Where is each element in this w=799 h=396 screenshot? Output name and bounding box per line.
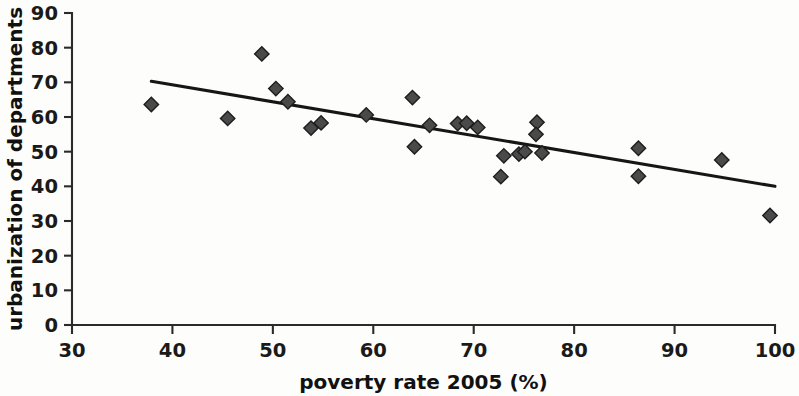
y-tick-label: 0 — [44, 314, 58, 337]
data-point-marker — [763, 208, 777, 222]
chart-canvas: 010203040506070809030405060708090100pove… — [0, 0, 799, 396]
x-axis-title: poverty rate 2005 (%) — [299, 370, 547, 394]
y-tick-label: 90 — [31, 2, 58, 25]
y-tick-label: 80 — [31, 37, 58, 60]
data-point-marker — [281, 95, 295, 109]
data-point-marker — [529, 127, 543, 141]
y-axis-title: urbanization of departments — [3, 7, 27, 331]
y-tick-label: 30 — [31, 210, 58, 233]
data-point-marker — [269, 81, 283, 95]
data-point-marker — [407, 140, 421, 154]
data-point-marker — [497, 149, 511, 163]
scatter-plot-figure: 010203040506070809030405060708090100pove… — [0, 0, 799, 396]
y-tick-label: 60 — [31, 106, 58, 129]
y-tick-label: 70 — [31, 71, 58, 94]
data-point-marker — [631, 169, 645, 183]
data-point-marker — [405, 90, 419, 104]
y-tick-label: 40 — [31, 175, 58, 198]
y-tick-label: 20 — [31, 245, 58, 268]
trend-line — [151, 81, 775, 186]
x-tick-label: 100 — [755, 339, 796, 362]
x-tick-label: 90 — [661, 339, 688, 362]
x-axis-ticks: 30405060708090100 — [58, 325, 795, 362]
data-point-marker — [494, 169, 508, 183]
y-axis-ticks: 0102030405060708090 — [31, 2, 72, 337]
y-tick-label: 10 — [31, 279, 58, 302]
x-tick-label: 40 — [159, 339, 186, 362]
data-point-marker — [144, 97, 158, 111]
data-point-marker — [359, 108, 373, 122]
data-point-marker — [220, 111, 234, 125]
y-tick-label: 50 — [31, 141, 58, 164]
x-tick-label: 30 — [58, 339, 85, 362]
data-point-marker — [631, 141, 645, 155]
data-point-marker — [255, 47, 269, 61]
data-point-marker — [715, 153, 729, 167]
x-tick-label: 50 — [259, 339, 286, 362]
x-tick-label: 80 — [561, 339, 588, 362]
x-tick-label: 70 — [460, 339, 487, 362]
x-tick-label: 60 — [360, 339, 387, 362]
